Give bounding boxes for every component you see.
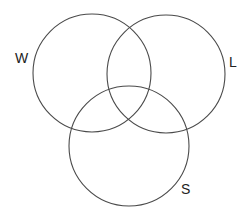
set-circle-w — [33, 14, 151, 132]
set-circle-l — [107, 15, 225, 133]
set-label-w: W — [15, 50, 29, 66]
set-label-l: L — [229, 54, 237, 70]
set-label-s: S — [181, 181, 190, 197]
venn-diagram: W L S — [0, 0, 247, 213]
set-circle-s — [69, 86, 189, 206]
